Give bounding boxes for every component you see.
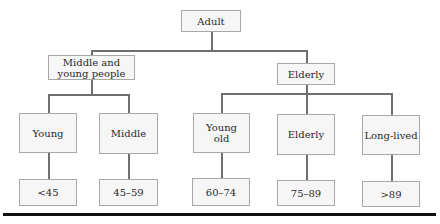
range-label: 60–74 <box>206 187 236 198</box>
connector-elderly-range <box>306 155 308 180</box>
connector-to-young-old <box>221 93 223 113</box>
node-middle-and-young-people: Middle and young people <box>48 55 135 80</box>
range-young: <45 <box>19 179 77 206</box>
range-young-old: 60–74 <box>192 178 250 206</box>
connector-elderly-group-down <box>306 85 308 93</box>
connector-level1-horizontal <box>91 50 307 52</box>
range-label: 45–59 <box>113 187 143 198</box>
connector-long-lived-range <box>391 155 393 181</box>
node-elderly: Elderly <box>277 114 335 155</box>
connector-to-young <box>48 94 50 113</box>
node-long-lived: Long-lived <box>362 115 420 155</box>
node-young-old: Young old <box>193 113 250 153</box>
node-young: Young <box>19 113 77 153</box>
connector-to-elderly-group <box>306 50 308 63</box>
bottom-rule <box>3 213 436 216</box>
range-elderly: 75–89 <box>277 180 335 206</box>
connector-middle-young-horizontal <box>48 94 129 96</box>
connector-young-old-range <box>221 153 223 178</box>
node-label: Elderly <box>288 129 324 140</box>
node-label-line1: Middle and <box>63 57 120 68</box>
node-label-line2: old <box>214 133 230 144</box>
node-label-line2: young people <box>58 68 126 79</box>
node-adult: Adult <box>181 10 241 32</box>
node-label: Long-lived <box>364 130 417 141</box>
connector-middle-range <box>128 154 130 179</box>
node-label: Young <box>32 128 63 139</box>
connector-root-down <box>211 32 213 50</box>
node-label-line1: Young <box>206 122 237 133</box>
node-label: Adult <box>197 16 224 27</box>
node-middle: Middle <box>99 113 158 154</box>
range-label: >89 <box>380 189 401 200</box>
range-long-lived: >89 <box>362 181 420 207</box>
connector-to-middle <box>128 94 130 113</box>
node-label: Elderly <box>288 69 324 80</box>
connector-middle-young-down <box>91 80 93 94</box>
range-label: <45 <box>37 187 58 198</box>
range-label: 75–89 <box>291 188 321 199</box>
connector-to-long-lived <box>391 93 393 115</box>
connector-to-elderly <box>306 93 308 114</box>
node-label: Middle <box>111 128 146 139</box>
range-middle: 45–59 <box>99 179 158 206</box>
node-elderly-group: Elderly <box>277 63 335 85</box>
connector-young-range <box>48 153 50 179</box>
